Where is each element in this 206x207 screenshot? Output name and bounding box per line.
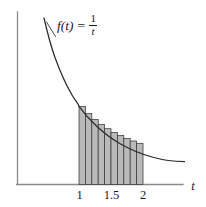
function-label-name: f(t) [57, 19, 74, 33]
x-tick-label-1point5: 1.5 [104, 188, 120, 202]
x-axis-label: t [191, 179, 195, 193]
x-tick-label-1: 1 [76, 188, 82, 202]
function-label-fraction: 1 t [89, 13, 97, 37]
riemann-bar [130, 141, 136, 185]
fraction-denominator: t [91, 26, 96, 37]
function-label-equals: = [78, 19, 86, 33]
riemann-bar [85, 114, 91, 185]
x-tick-labels-group: 1 1.5 2 [76, 188, 146, 202]
function-label: f(t) = 1 t [57, 14, 97, 37]
riemann-sum-figure: 1 1.5 2 t f(t) = 1 t [0, 0, 206, 207]
riemann-bar [137, 143, 143, 184]
riemann-bar [98, 124, 104, 184]
riemann-bar [124, 139, 130, 185]
figure-canvas: 1 1.5 2 t [0, 0, 206, 207]
x-tick-label-2: 2 [140, 188, 146, 202]
riemann-bar [79, 106, 85, 184]
function-curve [44, 18, 185, 162]
riemann-bar [92, 119, 98, 184]
fraction-numerator: 1 [89, 13, 97, 24]
